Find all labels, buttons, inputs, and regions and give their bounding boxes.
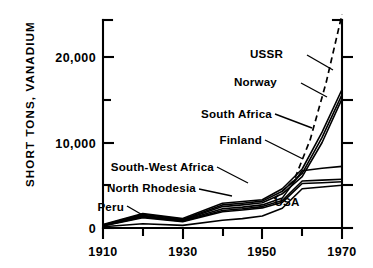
y-tick-label-0: 0 bbox=[89, 222, 96, 236]
y-tick-label-10000: 10,000 bbox=[55, 137, 96, 151]
series-label-peru: Peru bbox=[97, 200, 124, 213]
x-tick-label-1950: 1950 bbox=[247, 245, 276, 259]
series-label-ussr: USSR bbox=[250, 47, 283, 60]
x-tick-label-1970: 1970 bbox=[327, 245, 356, 259]
series-label-south-west-africa: South-West Africa bbox=[111, 160, 215, 173]
vanadium-production-chart: SHORT TONS, VANADIUM 20,000 10,000 0 bbox=[0, 0, 373, 268]
series-line-ussr bbox=[274, 14, 342, 199]
leader-norway bbox=[301, 83, 327, 97]
leader-ussr bbox=[307, 55, 333, 70]
y-axis-title: SHORT TONS, VANADIUM bbox=[23, 21, 36, 187]
y-tick-label-20000: 20,000 bbox=[55, 51, 96, 65]
y-axis-ticks-right bbox=[342, 57, 353, 228]
x-tick-label-1910: 1910 bbox=[88, 245, 117, 259]
series-label-norway: Norway bbox=[234, 75, 277, 88]
chart-svg: SHORT TONS, VANADIUM 20,000 10,000 0 bbox=[0, 0, 373, 268]
leader-north-rhodesia bbox=[199, 189, 232, 196]
series-label-south-africa: South Africa bbox=[201, 107, 272, 120]
series-label-finland: Finland bbox=[219, 133, 262, 146]
x-tick-label-1930: 1930 bbox=[168, 245, 197, 259]
series-group bbox=[103, 14, 342, 226]
series-label-usa: USA bbox=[274, 195, 300, 208]
leader-finland bbox=[265, 140, 303, 159]
leader-south-africa bbox=[275, 114, 312, 128]
x-axis-ticks bbox=[103, 228, 342, 239]
series-label-north-rhodesia: North Rhodesia bbox=[107, 181, 196, 194]
leader-south-west-africa bbox=[217, 167, 248, 183]
